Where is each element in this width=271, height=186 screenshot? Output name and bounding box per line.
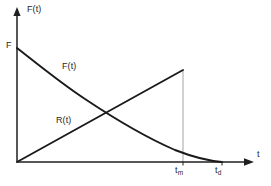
x-tick-label-td: td xyxy=(215,166,221,175)
x-tick-label-td-subscript: d xyxy=(218,169,222,176)
x-axis-arrow-icon xyxy=(244,158,254,165)
chart-plot-area xyxy=(0,0,271,186)
figure-canvas: F(t) F F(t) R(t) tm td t xyxy=(0,0,271,186)
y-axis-label: F(t) xyxy=(27,5,41,14)
y-intercept-label: F xyxy=(6,41,12,50)
x-tick-label-tm: tm xyxy=(175,166,183,175)
series-curve-rt xyxy=(17,70,183,162)
series-label-rt: R(t) xyxy=(56,116,71,125)
x-tick-label-tm-subscript: m xyxy=(178,169,184,176)
series-label-ft: F(t) xyxy=(62,62,76,71)
x-axis-label: t xyxy=(257,150,260,159)
y-axis-arrow-icon xyxy=(13,7,20,16)
